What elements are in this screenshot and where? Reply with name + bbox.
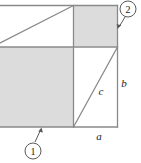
label-c: c [99, 85, 104, 97]
small-shaded-square [74, 6, 118, 47]
callout-2: 2 [117, 1, 136, 29]
figure-canvas: a b c 1 2 [0, 0, 141, 163]
label-a: a [96, 130, 102, 142]
callout-2-label: 2 [126, 4, 131, 15]
label-b: b [121, 77, 127, 89]
callout-1-arrow-head [38, 128, 43, 133]
geometry-figure: a b c 1 2 [0, 0, 141, 163]
callout-1: 1 [25, 128, 43, 160]
large-shaded-square [0, 47, 74, 127]
callout-1-label: 1 [31, 146, 36, 157]
